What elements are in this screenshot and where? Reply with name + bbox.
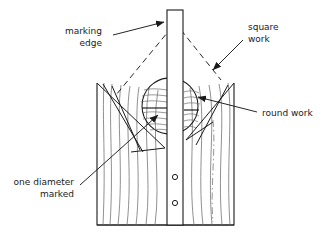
label-one-diameter-marked-line1: one diameter [14, 177, 75, 187]
label-marking-edge-line1: marking [65, 26, 102, 36]
label-marking-edge: marking edge [65, 26, 103, 48]
technical-diagram: marking edge square work round work one … [0, 0, 324, 238]
label-one-diameter-marked-line2: marked [40, 189, 74, 199]
label-square-work-line2: work [248, 34, 271, 44]
round-work-grain-left [141, 89, 167, 130]
label-square-work: square work [248, 22, 279, 44]
label-round-work: round work [262, 108, 314, 118]
leader-marking-edge [113, 22, 164, 35]
label-square-work-line1: square [248, 22, 279, 32]
centre-line [212, 120, 214, 222]
marking-edge-rule [167, 10, 183, 225]
label-marking-edge-line2: edge [80, 38, 103, 48]
label-round-work-line1: round work [262, 108, 314, 118]
leader-square-work [213, 40, 243, 70]
leader-round-work [198, 97, 257, 112]
label-one-diameter-marked: one diameter marked [14, 177, 75, 199]
diagram-canvas: marking edge square work round work one … [0, 0, 324, 238]
